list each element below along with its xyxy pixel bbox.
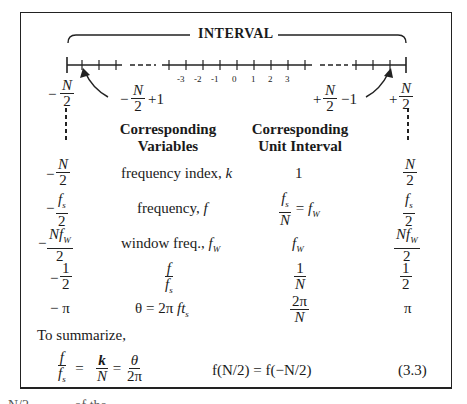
tick-label: -1 [211,74,219,84]
row2-unit: fsN = fW [278,191,320,228]
row5-left: − π [50,300,70,317]
row5-variable: θ = 2π fts [135,300,189,319]
row3-right: NfW2 [394,227,420,264]
row1-variable: frequency index, k [121,165,232,182]
number-line-diagram [0,0,467,140]
right-minus-one-fraction: N2 [323,83,337,114]
sign: − [120,91,128,108]
summary-equation: ffs = kN = θ2π [56,350,144,387]
tick-label: 3 [285,74,290,84]
tick-label: 0 [232,74,237,84]
row4-variable: ffs [163,261,175,298]
tick-label: 1 [251,74,256,84]
row1-left: N2 [56,157,70,188]
row1-unit: 1 [295,165,303,182]
equation-number: (3.3) [398,362,427,379]
cutoff-text: N/2 of the [8,398,156,404]
row3-unit: fW [292,235,304,254]
row5-unit: 2πN [290,294,309,325]
row4-unit: 1N [293,261,307,292]
symmetry-equation: f(N/2) = f(−N/2) [212,362,311,379]
left-plus-one-fraction: N2 [131,83,145,114]
suffix: +1 [148,91,164,108]
row1-right: N2 [403,157,417,188]
sign: − [48,86,56,103]
header-variables: CorrespondingVariables [118,121,218,155]
tick-label: -2 [194,74,202,84]
tick-label: 2 [268,74,273,84]
row4-right: 12 [400,261,412,292]
left-endpoint-fraction: N2 [60,78,74,109]
tick-label: -3 [177,74,185,84]
row2-left: fs2 [56,192,68,229]
right-endpoint-fraction: N2 [399,81,413,112]
row3-left: NfW2 [47,227,73,264]
row3-variable: window freq., fW [121,235,220,254]
summary-intro: To summarize, [37,327,126,344]
row2-variable: frequency, f [137,200,208,217]
row2-right: fs2 [403,192,415,229]
sign: + [313,91,321,108]
sign: + [389,91,397,108]
interval-label: INTERVAL [194,26,278,42]
suffix: −1 [341,91,357,108]
header-unit-interval: CorrespondingUnit Interval [250,121,350,155]
row4-left: 12 [60,261,72,292]
row5-right: π [404,300,412,317]
